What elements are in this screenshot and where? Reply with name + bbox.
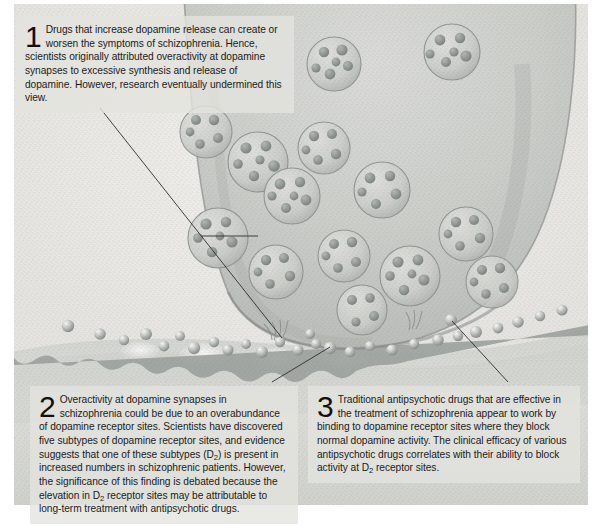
annotation-note-1: 1 Drugs that increase dopamine release c…: [16, 16, 294, 113]
annotation-note-2: 2 Overactivity at dopamine synapses in s…: [30, 386, 298, 524]
note-text-3: Traditional antipsychotic drugs that are…: [317, 393, 571, 475]
note-number-2: 2: [39, 394, 56, 420]
note-2-sub-1: 2: [214, 453, 218, 462]
note-2-sub-2: 2: [100, 494, 104, 503]
leader-line-3: [452, 321, 508, 382]
annotation-note-3: 3 Traditional antipsychotic drugs that a…: [308, 386, 580, 483]
note-3-part-1: Traditional antipsychotic drugs that are…: [317, 394, 567, 473]
note-3-sub-1: 2: [369, 466, 373, 475]
note-3-part-2: receptor sites.: [373, 462, 439, 473]
illustration-figure: 1 Drugs that increase dopamine release c…: [0, 0, 601, 532]
note-number-3: 3: [317, 394, 334, 420]
leader-line-1: [100, 108, 282, 338]
leader-line-2: [272, 347, 330, 382]
note-text-1: Drugs that increase dopamine release can…: [25, 23, 285, 105]
note-number-1: 1: [25, 24, 42, 50]
note-text-2: Overactivity at dopamine synapses in sch…: [39, 393, 289, 516]
